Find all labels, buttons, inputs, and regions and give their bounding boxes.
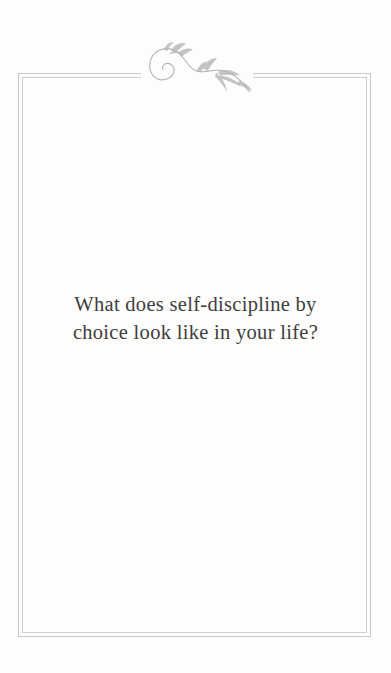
flourish-ornament-icon [141, 41, 253, 99]
inner-border-frame [22, 77, 367, 633]
book-page: What does self-discipline by choice look… [0, 0, 391, 673]
quote-line-2: choice look like in your life? [0, 318, 391, 346]
quote-text: What does self-discipline by choice look… [0, 290, 391, 346]
quote-line-1: What does self-discipline by [0, 290, 391, 318]
